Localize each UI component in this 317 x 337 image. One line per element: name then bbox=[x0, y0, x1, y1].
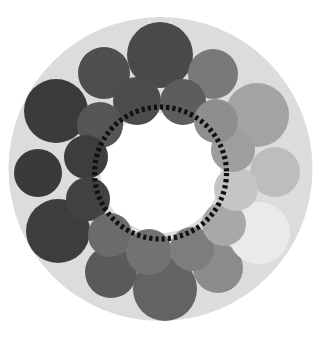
bubble-inner-bottom-left bbox=[88, 213, 132, 257]
bubble-ring-figure bbox=[0, 0, 317, 337]
bubble-outer-left-upper bbox=[24, 79, 88, 143]
bubble-outer-left-mid bbox=[14, 149, 62, 197]
bubble-inner-bottom-a bbox=[126, 229, 172, 275]
figure-canvas bbox=[0, 0, 317, 337]
bubble-inner-left-a bbox=[64, 135, 108, 179]
